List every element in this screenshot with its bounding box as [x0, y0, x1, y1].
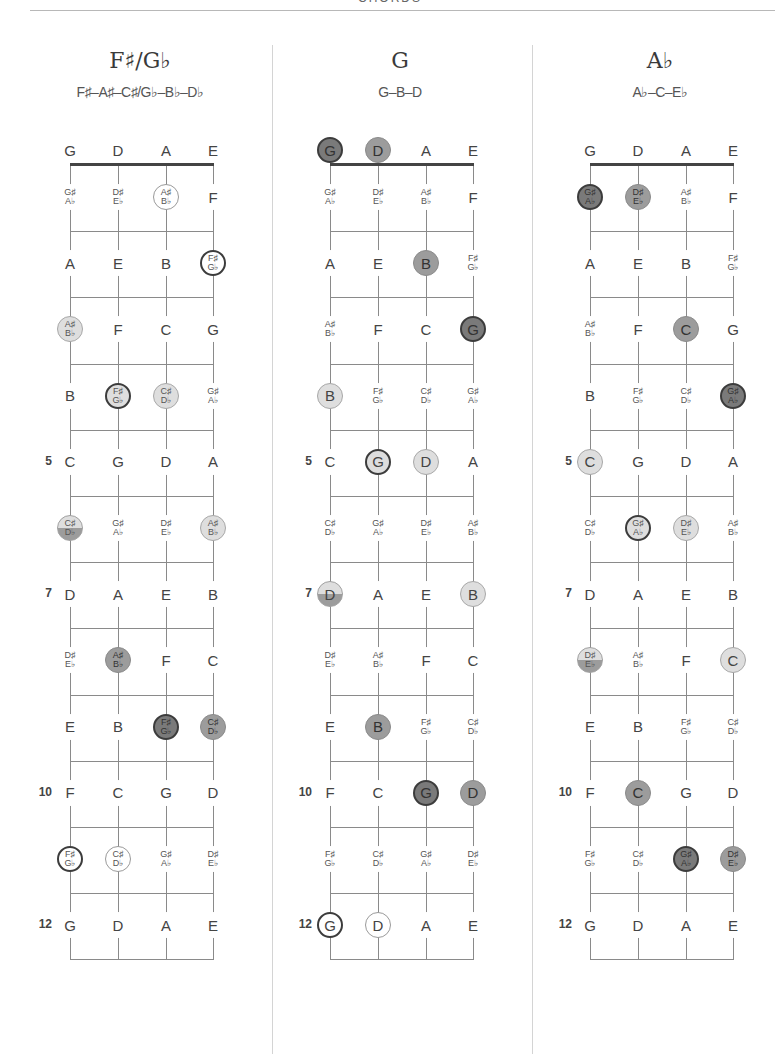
fret-number: 5	[552, 454, 572, 468]
fret-note: D♯E♭	[720, 846, 746, 872]
fret-note: G♯A♭	[673, 846, 699, 872]
fret-line	[330, 695, 474, 696]
fret-note: D♯E♭	[365, 184, 391, 210]
fret-note: E	[720, 912, 746, 938]
fret-line	[70, 562, 214, 563]
fret-note: F	[413, 647, 439, 673]
fret-number: 12	[292, 917, 312, 931]
fret-note: G♯A♭	[413, 846, 439, 872]
fret-note: G	[57, 912, 83, 938]
fret-note: C	[200, 647, 226, 673]
fret-note: G♯A♭	[460, 383, 486, 409]
fret-note: C	[625, 780, 651, 806]
fret-note: G	[153, 780, 179, 806]
fret-note: E	[317, 714, 343, 740]
fret-note: A♯B♭	[153, 184, 179, 210]
chord-panel-fsharp: F♯/G♭ F♯–A♯–C♯/G♭–B♭–D♭ 571012GDAEG♯A♭D♯…	[20, 0, 260, 1054]
fret-number: 7	[552, 586, 572, 600]
fret-note: E	[153, 581, 179, 607]
nut	[70, 163, 214, 166]
fret-note: F	[577, 780, 603, 806]
fret-note: G♯A♭	[200, 383, 226, 409]
fret-note: G	[317, 137, 343, 163]
fret-line	[330, 628, 474, 629]
fret-number: 7	[292, 586, 312, 600]
fret-note: C♯D♭	[413, 383, 439, 409]
fret-line	[590, 496, 734, 497]
fret-note: C	[460, 647, 486, 673]
fret-note: D♯E♭	[625, 184, 651, 210]
fret-note: C♯D♭	[460, 714, 486, 740]
fret-note: A	[673, 137, 699, 163]
fret-note: A♯B♭	[317, 316, 343, 342]
fret-line	[330, 893, 474, 894]
fret-note: E	[577, 714, 603, 740]
fret-note: E	[460, 912, 486, 938]
fret-note: G♯A♭	[625, 515, 651, 541]
fret-note: E	[625, 250, 651, 276]
fret-note: E	[200, 912, 226, 938]
fret-note: D♯E♭	[57, 647, 83, 673]
fret-note: E	[365, 250, 391, 276]
fret-note: F♯G♭	[460, 250, 486, 276]
fret-note: F♯G♭	[673, 714, 699, 740]
fret-note: C	[105, 780, 131, 806]
fret-note: C♯D♭	[153, 383, 179, 409]
fret-note: F♯G♭	[105, 383, 131, 409]
fret-line	[70, 231, 214, 232]
fret-note: D♯E♭	[317, 647, 343, 673]
fret-line	[330, 562, 474, 563]
fret-note: G	[577, 912, 603, 938]
fret-number: 12	[552, 917, 572, 931]
fret-note: C♯D♭	[365, 846, 391, 872]
fret-note: C	[153, 316, 179, 342]
fret-note: D	[57, 581, 83, 607]
fret-note: G♯A♭	[153, 846, 179, 872]
fret-note: B	[625, 714, 651, 740]
fret-note: A	[153, 137, 179, 163]
fret-note: D♯E♭	[460, 846, 486, 872]
fret-note: G	[625, 449, 651, 475]
fret-note: G	[57, 137, 83, 163]
fret-note: E	[460, 137, 486, 163]
fret-note: D	[200, 780, 226, 806]
fret-note: A	[673, 912, 699, 938]
fret-note: A♯B♭	[105, 647, 131, 673]
fret-note: A♯B♭	[673, 184, 699, 210]
fret-line	[590, 430, 734, 431]
fret-note: D	[365, 912, 391, 938]
fret-note: C	[365, 780, 391, 806]
fret-note: D♯E♭	[673, 515, 699, 541]
fret-note: F	[673, 647, 699, 673]
fret-line	[590, 562, 734, 563]
fret-note: F	[365, 316, 391, 342]
fret-note: B	[153, 250, 179, 276]
fret-line	[590, 628, 734, 629]
fret-line	[330, 364, 474, 365]
fret-note: B	[577, 383, 603, 409]
fret-note: A	[577, 250, 603, 276]
fret-line	[330, 231, 474, 232]
fret-line	[70, 364, 214, 365]
fret-note: C	[577, 449, 603, 475]
fret-line	[330, 959, 474, 960]
fret-note: G	[720, 316, 746, 342]
fret-line	[70, 695, 214, 696]
fret-note: F♯G♭	[57, 846, 83, 872]
fret-note: B	[317, 383, 343, 409]
fret-note: D	[365, 137, 391, 163]
fret-note: D	[625, 912, 651, 938]
fret-line	[590, 893, 734, 894]
fret-note: D	[720, 780, 746, 806]
fret-line	[590, 827, 734, 828]
fret-note: C♯D♭	[57, 515, 83, 541]
fret-note: D♯E♭	[413, 515, 439, 541]
fret-line	[70, 628, 214, 629]
fret-note: D	[673, 449, 699, 475]
fret-note: G	[413, 780, 439, 806]
fret-line	[590, 695, 734, 696]
fret-line	[70, 827, 214, 828]
fret-note: C♯D♭	[673, 383, 699, 409]
fret-note: A♯B♭	[200, 515, 226, 541]
fret-note: E	[413, 581, 439, 607]
